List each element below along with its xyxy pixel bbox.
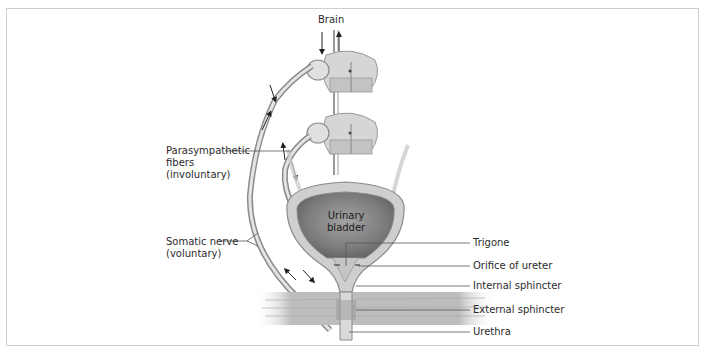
right-ureter [392,145,408,200]
somatic-up-arrow-icon-lower [286,270,296,280]
external-sphincter-shape [336,300,356,320]
bladder-innervation-illustration [0,0,707,355]
label-internal-sphincter: Internal sphincter [473,280,561,292]
spinal-cord-lower [307,113,378,154]
somatic-down-arrow-icon [270,85,275,100]
somatic-down-arrow-icon-lower [303,270,313,281]
parasympathetic-up-arrow-icon [283,145,285,160]
label-trigone: Trigone [473,237,509,249]
pelvic-floor-muscle [255,292,495,325]
label-urethra: Urethra [473,326,511,338]
urinary-bladder [287,182,404,292]
label-urinary-bladder: Urinary bladder [327,210,365,234]
label-external-sphincter: External sphincter [473,304,564,316]
label-parasympathetic-fibers: Parasympathetic fibers (involuntary) [166,145,250,181]
label-orifice-of-ureter: Orifice of ureter [473,260,552,272]
spinal-cord-upper [307,51,378,92]
label-somatic-nerve: Somatic nerve (voluntary) [166,236,238,260]
label-brain: Brain [318,14,344,26]
